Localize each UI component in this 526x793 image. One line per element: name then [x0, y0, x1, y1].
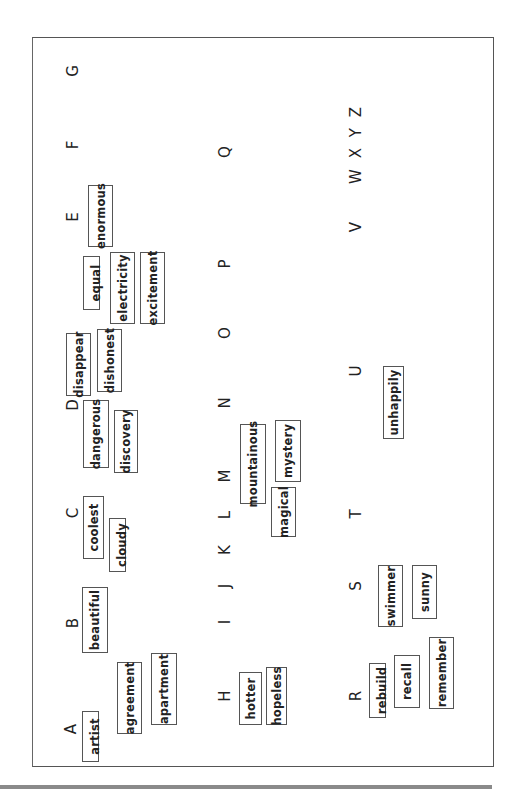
- letter-heading-a: A: [64, 724, 79, 734]
- word-label: coolest: [87, 503, 101, 551]
- word-label: cloudy: [115, 523, 129, 567]
- word-card-cloudy[interactable]: cloudy: [109, 518, 126, 572]
- word-card-dishonest[interactable]: dishonest: [97, 329, 122, 392]
- word-card-rebuild[interactable]: rebuild: [369, 663, 386, 718]
- letter-heading-j: J: [218, 584, 233, 588]
- word-card-unhappily[interactable]: unhappily: [383, 366, 404, 439]
- word-label: rebuild: [375, 667, 389, 714]
- letter-heading-d: D: [66, 399, 81, 411]
- word-label: mountainous: [246, 421, 260, 508]
- letter-heading-l: L: [218, 511, 233, 519]
- word-card-magical[interactable]: magical: [271, 487, 296, 537]
- word-card-discovery[interactable]: discovery: [114, 410, 138, 473]
- letter-heading-f: F: [66, 141, 81, 150]
- letter-heading-m: M: [218, 470, 233, 483]
- word-label: sunny: [418, 572, 432, 612]
- word-label: agreement: [123, 662, 137, 735]
- letter-heading-b: B: [66, 618, 81, 628]
- word-label: remember: [435, 639, 449, 708]
- word-card-coolest[interactable]: coolest: [83, 496, 104, 559]
- word-card-recall[interactable]: recall: [394, 655, 420, 708]
- word-label: equal: [89, 265, 103, 302]
- letter-heading-p: P: [218, 259, 233, 268]
- letter-heading-o: O: [218, 327, 233, 339]
- letter-heading-s: S: [349, 581, 364, 591]
- letter-heading-g: G: [66, 65, 81, 77]
- word-label: disappear: [72, 331, 86, 397]
- word-label: electricity: [116, 254, 130, 321]
- letter-heading-wxyz: W X Y Z: [349, 104, 364, 184]
- word-label: hopeless: [270, 666, 284, 725]
- word-card-remember[interactable]: remember: [429, 637, 454, 709]
- letter-heading-c: C: [66, 508, 81, 518]
- letter-heading-t: T: [349, 509, 364, 518]
- letter-heading-r: R: [349, 691, 364, 701]
- word-label: beautiful: [88, 590, 102, 650]
- word-label: dangerous: [89, 399, 103, 470]
- word-card-enormous[interactable]: enormous: [88, 185, 113, 247]
- worksheet-border: ABCDEFGHIJKLMNOPQRSTUVW X Y Zartistagree…: [32, 37, 494, 767]
- word-label: recall: [400, 663, 414, 700]
- word-label: unhappily: [387, 370, 401, 436]
- word-card-mystery[interactable]: mystery: [275, 420, 301, 482]
- letter-heading-h: H: [218, 690, 233, 701]
- word-card-hopeless[interactable]: hopeless: [266, 667, 287, 725]
- word-label: hotter: [244, 678, 258, 720]
- letter-heading-q: Q: [218, 146, 233, 158]
- letter-heading-n: N: [218, 397, 233, 408]
- letter-heading-u: U: [349, 366, 364, 377]
- letter-heading-v: V: [349, 222, 364, 232]
- word-label: dishonest: [103, 328, 117, 393]
- word-card-beautiful[interactable]: beautiful: [82, 587, 108, 653]
- word-card-hotter[interactable]: hotter: [239, 672, 262, 725]
- word-card-sunny[interactable]: sunny: [412, 565, 437, 619]
- word-card-mountainous[interactable]: mountainous: [240, 424, 266, 504]
- word-card-equal[interactable]: equal: [83, 256, 100, 310]
- word-label: apartment: [157, 654, 171, 724]
- letter-heading-k: K: [218, 545, 233, 555]
- word-label: enormous: [94, 183, 108, 249]
- word-label: mystery: [281, 424, 295, 478]
- word-card-disappear[interactable]: disappear: [66, 333, 91, 396]
- letter-heading-e: E: [66, 212, 81, 221]
- word-label: excitement: [146, 251, 160, 326]
- letter-heading-i: I: [218, 620, 233, 624]
- word-card-apartment[interactable]: apartment: [151, 653, 177, 725]
- bottom-divider: [0, 785, 492, 789]
- word-label: artist: [88, 718, 102, 754]
- word-label: discovery: [119, 410, 133, 474]
- word-card-excitement[interactable]: excitement: [140, 252, 165, 324]
- word-label: swimmer: [384, 566, 398, 626]
- word-card-artist[interactable]: artist: [82, 711, 99, 762]
- word-label: magical: [277, 486, 291, 538]
- word-card-electricity[interactable]: electricity: [110, 252, 135, 324]
- word-card-swimmer[interactable]: swimmer: [378, 565, 403, 627]
- word-card-dangerous[interactable]: dangerous: [83, 400, 109, 468]
- word-card-agreement[interactable]: agreement: [117, 662, 142, 734]
